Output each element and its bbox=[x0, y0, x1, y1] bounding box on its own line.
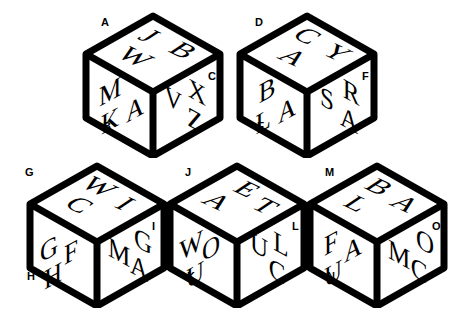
corner-label-b: B bbox=[103, 121, 111, 132]
corner-label-a: A bbox=[101, 17, 109, 28]
corner-label-n: N bbox=[327, 271, 335, 282]
corner-label-d: D bbox=[255, 17, 263, 28]
corner-label-c: C bbox=[208, 71, 216, 82]
corner-label-e: E bbox=[257, 121, 264, 132]
cube-5: B A L F A U O M C bbox=[302, 158, 452, 308]
corner-label-k: K bbox=[187, 271, 195, 282]
corner-label-o: O bbox=[432, 221, 441, 232]
corner-label-h: H bbox=[27, 271, 35, 282]
cube-3: W I C G F H G M A bbox=[22, 158, 172, 308]
figure-canvas: J B W M K A V X Z A B C bbox=[0, 0, 465, 324]
corner-label-j: J bbox=[185, 167, 191, 178]
cube-2: C Y A B L A S R A bbox=[232, 8, 382, 158]
corner-label-m: M bbox=[325, 167, 334, 178]
cube-1: J B W M K A V X Z bbox=[78, 8, 228, 158]
corner-label-l: L bbox=[292, 221, 299, 232]
corner-label-g: G bbox=[25, 167, 34, 178]
cube-4: E T A W O U U L C bbox=[162, 158, 312, 308]
corner-label-f: F bbox=[362, 71, 369, 82]
corner-label-i: I bbox=[152, 221, 155, 232]
